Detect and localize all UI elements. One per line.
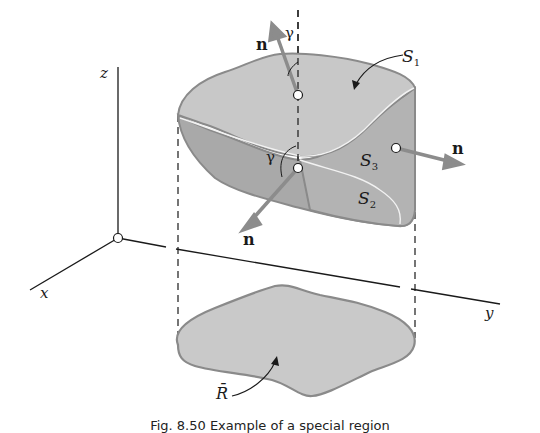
z-axis-label: z (100, 66, 108, 81)
x-axis (30, 238, 118, 290)
y-axis-segment-1 (118, 238, 166, 247)
x-axis-label: x (40, 286, 48, 301)
normal-bottom-label: n (243, 232, 255, 248)
region-label: R̄ (216, 386, 228, 402)
angle-bottom-label: γ (266, 150, 275, 165)
surface-s2-label: S2 (358, 190, 376, 210)
y-axis-segment-3 (411, 289, 500, 304)
point-top (294, 91, 303, 100)
y-axis-segment-2 (176, 249, 400, 287)
figure-caption: Fig. 8.50 Example of a special region (0, 418, 540, 433)
angle-top-label: γ (285, 26, 294, 41)
surface-s1-label: S1 (402, 48, 420, 68)
y-axis-label: y (485, 306, 493, 321)
surface-s3-label: S3 (360, 152, 378, 172)
point-bottom (294, 164, 303, 173)
region-r-bar (177, 285, 415, 396)
normal-bottom-head (243, 215, 260, 230)
origin-point (114, 234, 123, 243)
normal-top-head (270, 24, 284, 40)
normal-side-label: n (452, 141, 464, 157)
normal-top-label: n (256, 37, 268, 53)
point-side (392, 144, 401, 153)
